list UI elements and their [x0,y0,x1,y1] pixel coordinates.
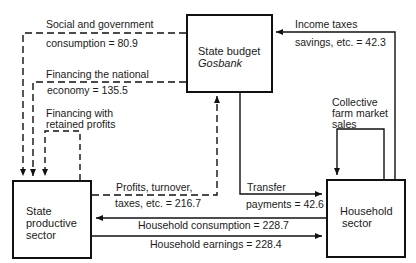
household-line2: sector [342,217,372,229]
state-productive-box: State productive sector [12,180,92,259]
social-consumption-label-1: Social and government [46,18,153,30]
retained-profits-label-2: retained profits [46,118,115,130]
state-productive-line2: productive [26,217,77,229]
social-consumption-label-2: consumption = 80.9 [46,37,138,49]
household-earnings-label: Household earnings = 228.4 [150,238,282,250]
state-productive-line3: sector [26,229,56,241]
financing-national-label-1: Financing the national [46,68,149,80]
flow-diagram: State budget Gosbank State productive se… [0,0,416,263]
financing-national-label-2: economy = 135.5 [47,84,128,96]
collective-farm-arrow [337,129,384,179]
state-productive-line1: State [26,205,52,217]
state-budget-box: State budget Gosbank [186,14,273,93]
state-budget-label: State budget [198,45,260,57]
income-taxes-label-2: savings, etc. = 42.3 [295,36,386,48]
household-consumption-label: Household consumption = 228.7 [138,219,289,231]
gosbank-label: Gosbank [198,57,242,69]
retained-profits-arrow [45,131,80,180]
household-line1: Household [340,205,393,217]
household-box: Household sector [326,179,406,258]
social-consumption-arrow [23,33,186,176]
collective-farm-label-3: sales [332,118,357,130]
transfer-label-2: payments = 42.6 [246,198,324,210]
profits-turnover-label-1: Profits, turnover, [116,181,192,193]
transfer-arrow [240,92,322,194]
income-taxes-label-1: Income taxes [295,18,357,30]
profits-turnover-label-2: taxes, etc. = 216.7 [115,197,201,209]
transfer-label-1: Transfer [247,181,286,193]
